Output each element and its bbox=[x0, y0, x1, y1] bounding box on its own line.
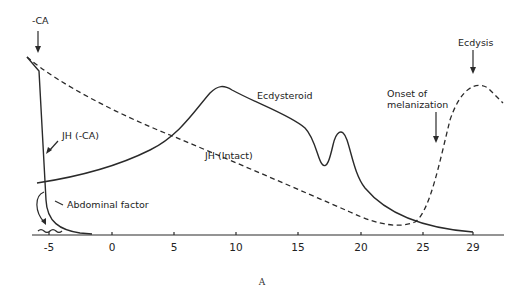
tick-label: 25 bbox=[416, 241, 429, 253]
tick-label: 10 bbox=[229, 241, 242, 253]
ecdysis-arrow-icon bbox=[470, 50, 476, 74]
jh-minus-ca-arrow-icon bbox=[46, 141, 58, 154]
figure-caption: A bbox=[258, 277, 266, 287]
tick-label: 5 bbox=[171, 241, 178, 253]
x-axis-tick-labels: -5 0 5 10 15 20 25 29 bbox=[44, 241, 480, 253]
tick-label: 0 bbox=[109, 241, 116, 253]
ecdysis-label: Ecdysis bbox=[458, 37, 493, 48]
minus-ca-label: -CA bbox=[32, 15, 49, 26]
tick-label: 29 bbox=[466, 241, 479, 253]
onset-label-line2: melanization bbox=[387, 99, 448, 110]
wavy-bracket-icon bbox=[38, 230, 62, 233]
abdominal-factor-leader bbox=[55, 201, 63, 205]
onset-label-line1: Onset of bbox=[387, 88, 428, 99]
hormone-titer-diagram: -5 0 5 10 15 20 25 29 -CA JH (-CA) Abdom… bbox=[0, 0, 526, 304]
abdominal-factor-label: Abdominal factor bbox=[67, 199, 149, 210]
tick-label: 15 bbox=[291, 241, 304, 253]
jh-intact-label: JH (Intact) bbox=[204, 150, 253, 161]
tick-label: -5 bbox=[44, 241, 54, 253]
ecdysteroid-label: Ecdysteroid bbox=[257, 90, 313, 101]
jh-minus-ca-label: JH (-CA) bbox=[61, 130, 99, 141]
onset-arrow-icon bbox=[433, 112, 439, 143]
minus-ca-arrow-icon bbox=[35, 31, 41, 53]
curved-arrow-icon bbox=[37, 192, 46, 225]
tick-label: 20 bbox=[354, 241, 367, 253]
